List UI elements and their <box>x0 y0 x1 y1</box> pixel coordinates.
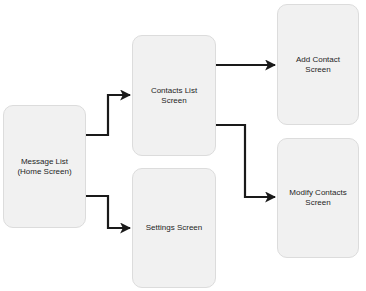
edge-home-to-contacts <box>86 95 130 135</box>
node-contacts-list-screen: Contacts List Screen <box>132 35 216 156</box>
diagram-canvas: Message List (Home Screen) Contacts List… <box>0 0 366 291</box>
edge-contacts-to-modify <box>216 125 275 197</box>
node-label: Message List (Home Screen) <box>17 157 71 177</box>
node-label: Settings Screen <box>146 223 202 233</box>
node-label: Contacts List Screen <box>151 86 197 106</box>
node-label: Add Contact Screen <box>296 55 340 75</box>
node-message-list-home-screen: Message List (Home Screen) <box>3 105 86 228</box>
edge-home-to-settings <box>86 196 130 228</box>
node-settings-screen: Settings Screen <box>132 168 216 288</box>
node-label: Modify Contacts Screen <box>289 188 346 208</box>
node-modify-contacts-screen: Modify Contacts Screen <box>277 138 359 258</box>
node-add-contact-screen: Add Contact Screen <box>277 4 359 125</box>
